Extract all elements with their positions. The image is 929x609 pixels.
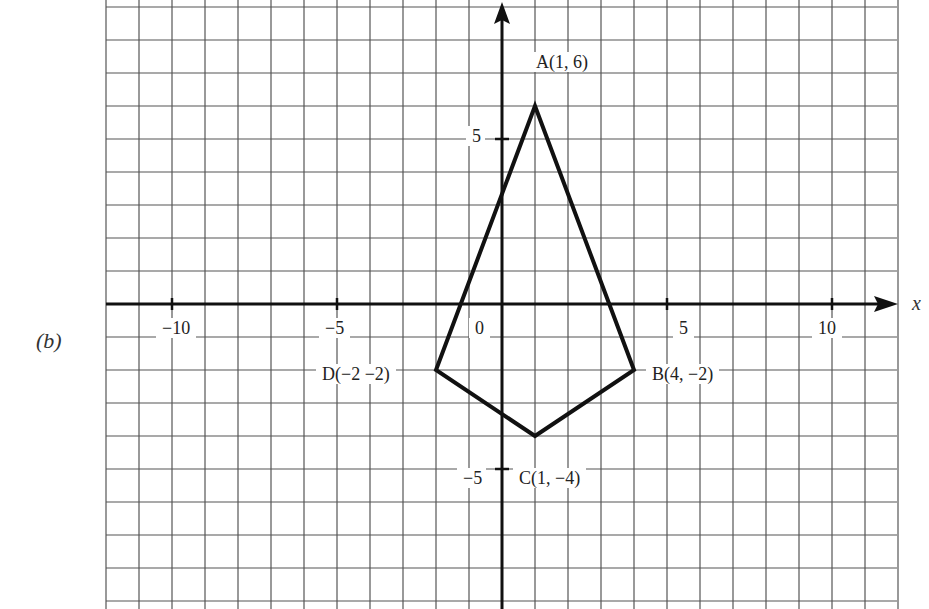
- x-tick-label-0: 0: [469, 318, 490, 338]
- x-tick-label-neg5: −5: [319, 318, 350, 338]
- coordinate-grid: [0, 0, 929, 609]
- part-label: (b): [36, 328, 62, 354]
- x-tick-label-10: 10: [812, 318, 842, 338]
- x-tick-label-5: 5: [673, 318, 694, 338]
- x-axis-label: x: [912, 292, 921, 315]
- y-tick-label-5: 5: [466, 126, 485, 146]
- point-label-a: A(1, 6): [526, 52, 598, 72]
- point-label-d: D(−2 −2): [316, 364, 396, 384]
- point-label-c: C(1, −4): [513, 468, 586, 488]
- y-tick-label-neg5: −5: [457, 468, 486, 488]
- x-tick-label-neg10: −10: [156, 318, 196, 338]
- point-label-b: B(4, −2): [646, 364, 719, 384]
